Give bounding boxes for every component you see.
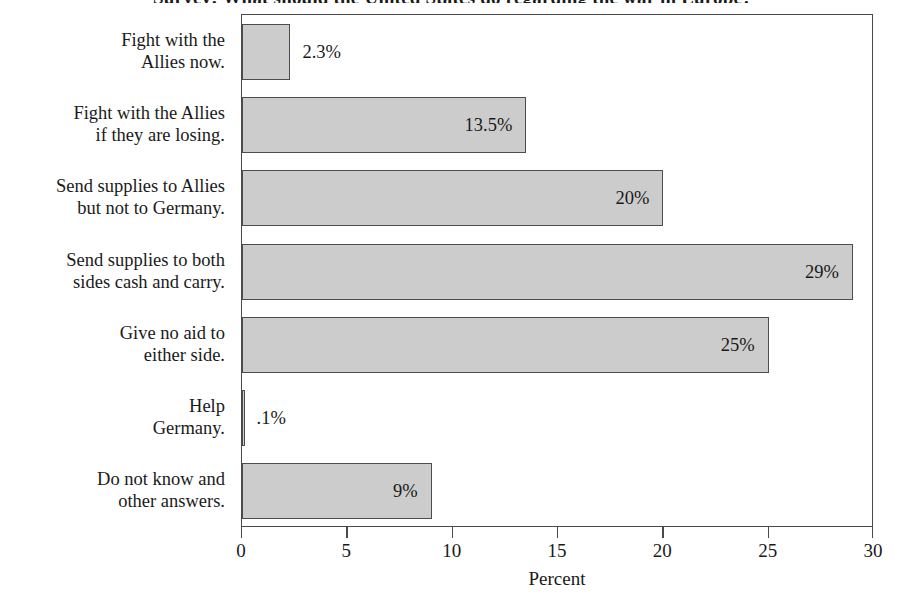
bar-value-label: 25% — [242, 336, 755, 355]
category-label: Help Germany. — [0, 395, 225, 439]
bar — [242, 390, 245, 446]
x-tick-mark — [452, 527, 453, 538]
bar-value-label: .1% — [257, 409, 286, 428]
x-tick-mark — [346, 527, 347, 538]
category-label: Send supplies to Allies but not to Germa… — [0, 175, 225, 219]
chart-title: Survey: What should the United States do… — [0, 0, 905, 3]
x-axis-title: Percent — [241, 568, 873, 590]
plot-area: 2.3%13.5%20%29%25%.1%9% — [241, 14, 873, 527]
x-tick-label: 25 — [738, 540, 798, 562]
category-label: Give no aid to either side. — [0, 322, 225, 366]
bars-container: 2.3%13.5%20%29%25%.1%9% — [242, 15, 872, 526]
x-tick-label: 20 — [632, 540, 692, 562]
bar-value-label: 2.3% — [302, 43, 341, 62]
category-axis-labels: Fight with the Allies now.Fight with the… — [0, 14, 233, 527]
category-label: Do not know and other answers. — [0, 468, 225, 512]
x-tick-label: 5 — [316, 540, 376, 562]
category-label: Send supplies to both sides cash and car… — [0, 249, 225, 293]
category-label: Fight with the Allies if they are losing… — [0, 102, 225, 146]
x-tick-label: 0 — [211, 540, 271, 562]
bar-value-label: 9% — [242, 482, 418, 501]
x-tick-mark — [241, 527, 242, 538]
bar-value-label: 20% — [242, 189, 649, 208]
x-tick-label: 15 — [527, 540, 587, 562]
x-tick-mark — [662, 527, 663, 538]
category-label: Fight with the Allies now. — [0, 29, 225, 73]
x-tick-mark — [872, 527, 873, 538]
x-tick-mark — [557, 527, 558, 538]
bar-value-label: 29% — [242, 263, 839, 282]
x-tick-label: 10 — [422, 540, 482, 562]
bar-value-label: 13.5% — [242, 116, 512, 135]
x-tick-label: 30 — [843, 540, 903, 562]
horizontal-bar-chart: Survey: What should the United States do… — [0, 0, 905, 603]
bar — [242, 24, 290, 80]
x-tick-mark — [768, 527, 769, 538]
